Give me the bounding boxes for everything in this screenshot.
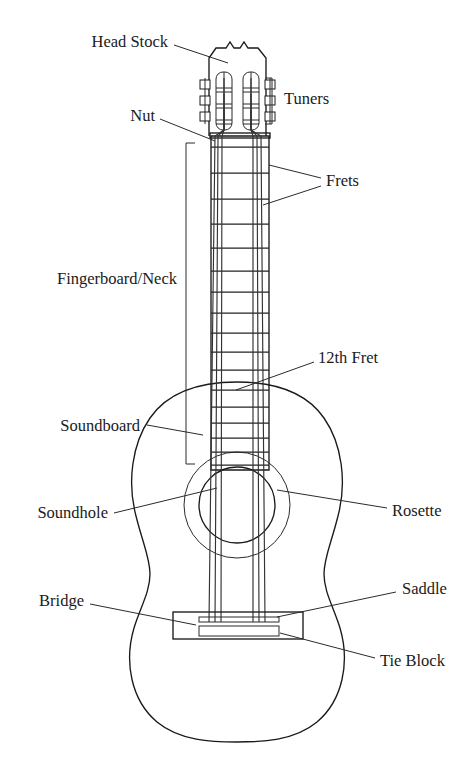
tie-block-rect [199,626,279,636]
rosette-ring [184,452,290,558]
leader-frets-lower [263,186,321,205]
leader-soundhole [114,488,217,513]
label-tuners: Tuners [284,89,329,108]
label-nut: Nut [130,106,155,125]
leader-nut [160,119,215,141]
leader-bridge [90,604,196,625]
neck-fingerboard [211,136,269,470]
label-fingerboard-neck: Fingerboard/Neck [57,269,178,288]
fingerboard-neck-bracket [186,143,195,464]
leader-frets-upper [269,165,321,178]
diagram-labels: Head Stock Tuners Nut Frets Fingerboard/… [37,32,447,670]
guitar-anatomy-diagram-page: Head Stock Tuners Nut Frets Fingerboard/… [0,0,471,770]
guitar-strings [209,78,265,622]
leader-saddle [277,592,396,617]
label-head-stock: Head Stock [91,32,168,51]
tuning-pegs-right [265,78,275,124]
label-twelfth-fret: 12th Fret [318,348,378,367]
fret-lines [211,147,269,465]
guitar-body-outline [130,382,345,742]
label-soundhole: Soundhole [37,503,108,522]
label-bridge: Bridge [39,591,84,610]
leader-tie-block [280,633,375,658]
leader-rosette [277,490,387,508]
label-frets: Frets [326,171,359,190]
label-soundboard: Soundboard [60,416,140,435]
tuning-pegs-left [200,78,210,124]
leader-soundboard [147,425,203,435]
label-tie-block: Tie Block [380,651,446,670]
headstock-outline [209,42,266,136]
guitar-drawing [130,42,345,742]
saddle-strip [199,617,279,622]
guitar-diagram-svg: Head Stock Tuners Nut Frets Fingerboard/… [0,0,471,770]
label-saddle: Saddle [402,579,447,598]
label-rosette: Rosette [392,501,442,520]
